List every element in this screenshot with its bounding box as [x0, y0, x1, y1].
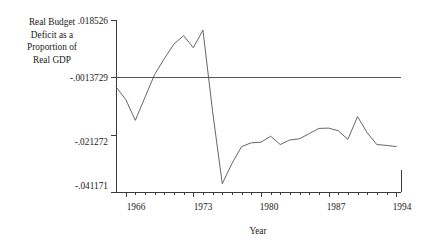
x-axis-ticks — [127, 192, 397, 197]
y-axis-ticks — [111, 21, 116, 193]
data-series-line — [116, 30, 396, 184]
chart-figure: Real Budget Deficit as a Proportion of R… — [0, 0, 421, 248]
plot-area — [0, 0, 421, 248]
